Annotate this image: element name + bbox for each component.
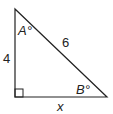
side-label-vertical: 4 — [3, 51, 10, 66]
side-label-horizontal: x — [56, 99, 64, 114]
angle-label-a: A° — [17, 23, 32, 38]
right-angle-marker — [15, 89, 23, 97]
side-label-hypotenuse: 6 — [62, 35, 69, 50]
angle-label-b: B° — [76, 82, 90, 97]
right-triangle-diagram: 4 6 x A° B° — [0, 0, 113, 114]
